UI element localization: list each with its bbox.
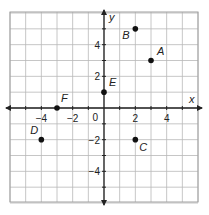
point-marker [133, 137, 139, 143]
point-label: B [122, 29, 129, 41]
point-marker [54, 105, 60, 111]
point-marker [39, 137, 45, 143]
axes [5, 9, 203, 206]
point-label: E [109, 76, 117, 88]
arrow-right-icon [197, 105, 203, 111]
x-tick-label: −2 [67, 113, 79, 124]
tick-labels: −4−22442−2−40xy [36, 11, 195, 177]
origin-label: 0 [92, 112, 98, 123]
point-b: B [122, 26, 138, 41]
y-tick-label: −4 [89, 166, 101, 177]
point-marker [148, 58, 154, 64]
point-marker [101, 89, 107, 95]
arrow-left-icon [5, 105, 11, 111]
x-tick-label: 4 [164, 113, 170, 124]
point-label: C [139, 141, 147, 153]
y-tick-label: 2 [94, 71, 100, 82]
coordinate-plane: −4−22442−2−40xy ABCDEF [0, 0, 209, 215]
y-tick-label: −2 [89, 135, 101, 146]
y-tick-label: 4 [94, 40, 100, 51]
point-label: D [30, 124, 38, 136]
point-marker [133, 26, 139, 32]
x-tick-label: −4 [36, 113, 48, 124]
point-label: F [61, 92, 69, 104]
x-axis-label: x [188, 93, 195, 105]
point-c: C [133, 137, 148, 153]
x-tick-label: 2 [133, 113, 139, 124]
point-label: A [156, 45, 164, 57]
